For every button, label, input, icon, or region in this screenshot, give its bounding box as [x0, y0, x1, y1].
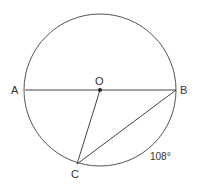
label-o: O [95, 75, 104, 87]
label-c: C [71, 168, 79, 180]
label-b: B [180, 84, 187, 96]
circle-diagram: A B O C 108° [0, 0, 198, 186]
radius-oc [77, 90, 100, 164]
arc-label: 108° [150, 151, 171, 162]
center-point [98, 88, 102, 92]
label-a: A [11, 84, 19, 96]
